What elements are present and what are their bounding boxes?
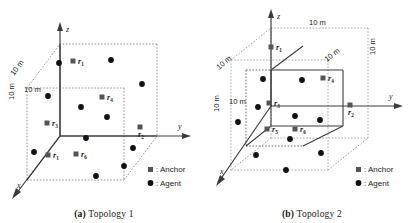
- agent-marker: [283, 167, 289, 173]
- anchor-labels: r1 r2 r3 r4 r6 r1: [52, 57, 144, 161]
- agent-marker: [78, 104, 84, 110]
- agent-marker: [121, 163, 127, 169]
- anchor-marker: [265, 127, 270, 132]
- agent-marker: [235, 119, 241, 125]
- anchor-marker: [46, 153, 51, 158]
- legend-anchor-label: : Anchor: [156, 165, 186, 174]
- anchor-marker: [100, 95, 105, 100]
- anchor-marker: [267, 101, 272, 106]
- agent-marker: [83, 135, 89, 141]
- z-axis-label: z: [65, 25, 70, 34]
- anchor-marker: [138, 125, 143, 130]
- legend-anchor-label: : Anchor: [364, 165, 394, 174]
- caption-tag-a: (a): [74, 209, 86, 219]
- dimension-label-horizontal: 10 m: [24, 85, 41, 94]
- legend-agent-icon: [148, 180, 154, 186]
- dimension-label-left-horizontal: 10 m: [229, 97, 246, 106]
- x-axis-label: x: [219, 167, 224, 176]
- dimension-label-diagonal: 10 m: [8, 58, 25, 77]
- caption-tag-b: (b): [282, 209, 294, 219]
- panel-topology-2: z y x 10 m 10 m 10 m 10 m 10 m 10 m: [208, 0, 416, 223]
- agent-marker: [318, 150, 324, 156]
- dimension-label-vertical: 10 m: [7, 83, 16, 100]
- topology-1-diagram: z y x 10 m 10 m 10 m r1: [0, 0, 208, 200]
- panel-topology-1: z y x 10 m 10 m 10 m r1: [0, 0, 208, 223]
- anchor-label-r3: r3: [52, 119, 58, 129]
- topology-2-diagram: z y x 10 m 10 m 10 m 10 m 10 m 10 m: [208, 0, 416, 200]
- agent-markers: [235, 76, 324, 173]
- agent-marker: [108, 57, 114, 63]
- caption-topology-2: (b) Topology 2: [208, 209, 416, 219]
- legend: : Anchor : Agent: [356, 165, 394, 188]
- agent-marker: [139, 81, 145, 87]
- caption-topology-1: (a) Topology 1: [0, 209, 208, 219]
- caption-text-b: Topology 2: [297, 209, 342, 219]
- cube-solid-edges: [27, 44, 157, 180]
- agent-marker: [56, 60, 62, 66]
- agent-marker: [45, 93, 51, 99]
- dimension-label-left-vertical: 10 m: [212, 95, 221, 112]
- legend-agent-label: : Agent: [156, 179, 182, 188]
- legend: : Anchor : Agent: [148, 165, 186, 188]
- agent-marker: [317, 117, 323, 123]
- z-axis-arrow: [57, 22, 63, 31]
- agent-marker: [130, 145, 136, 151]
- z-axis-label: z: [276, 12, 281, 21]
- x-axis-label: x: [16, 181, 21, 190]
- y-axis-arrow: [394, 103, 403, 109]
- agent-marker: [255, 104, 261, 110]
- anchor-label-r4: r4: [107, 93, 113, 103]
- anchor-marker: [45, 121, 50, 126]
- anchor-marker: [71, 59, 76, 64]
- y-axis-arrow: [182, 133, 191, 139]
- y-axis-label: y: [177, 122, 182, 131]
- agent-marker: [93, 173, 99, 179]
- anchor-marker: [321, 76, 326, 81]
- agent-marker: [104, 114, 110, 120]
- legend-anchor-icon: [356, 167, 361, 172]
- anchor-label-r3: r3: [274, 99, 280, 109]
- cube-dashed-edges: [27, 44, 157, 180]
- anchor-label-r1-bottom: r1: [53, 151, 59, 161]
- agent-markers: [31, 57, 145, 179]
- z-axis-arrow: [268, 9, 274, 18]
- x-axis-arrow: [216, 175, 225, 186]
- anchor-marker: [293, 127, 298, 132]
- y-axis-label: y: [388, 92, 393, 101]
- anchor-label-r1-top: r1: [78, 57, 84, 67]
- dimension-label-right-vertical: 10 m: [368, 38, 377, 55]
- anchor-markers: [45, 59, 143, 158]
- anchor-label-r2: r2: [348, 108, 354, 118]
- legend-anchor-icon: [148, 167, 153, 172]
- anchor-labels: r1 r2 r3 r4 r5 r6: [272, 43, 354, 135]
- anchor-marker: [74, 152, 79, 157]
- legend-agent-icon: [356, 180, 362, 186]
- anchor-label-r6: r6: [81, 150, 87, 160]
- anchor-label-r2: r2: [138, 130, 144, 140]
- dimension-label-left-diagonal: 10 m: [215, 54, 234, 72]
- anchor-markers: [265, 45, 353, 132]
- dimension-label-right-diagonal: 10 m: [323, 46, 342, 63]
- caption-text-a: Topology 1: [88, 209, 133, 219]
- anchor-label-r1-top: r1: [276, 43, 282, 53]
- agent-marker: [299, 77, 305, 83]
- anchor-marker: [269, 45, 274, 50]
- figure-container: z y x 10 m 10 m 10 m r1: [0, 0, 416, 223]
- dimension-label-top: 10 m: [309, 18, 326, 27]
- agent-marker: [31, 149, 37, 155]
- agent-marker: [292, 113, 298, 119]
- agent-marker: [260, 76, 266, 82]
- agent-marker: [287, 136, 293, 142]
- agent-marker: [253, 152, 259, 158]
- anchor-marker: [348, 103, 353, 108]
- anchor-label-r4: r4: [328, 74, 334, 84]
- legend-agent-label: : Agent: [364, 179, 390, 188]
